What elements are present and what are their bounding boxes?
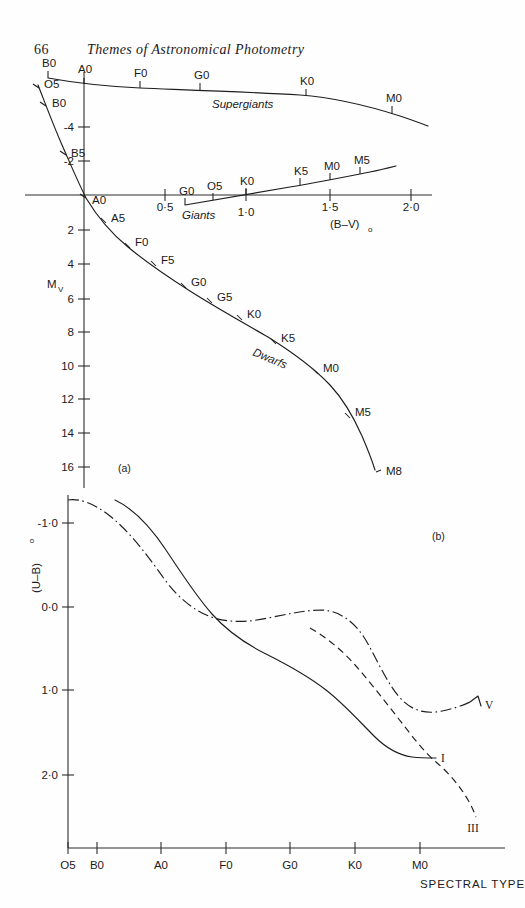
panel-a-ytick-8: 14 — [61, 427, 74, 439]
panel-b-x-axis-label: SPECTRAL TYPE — [420, 878, 525, 890]
page-canvas: 66Themes of Astronomical Photometry — [0, 0, 525, 908]
dwarfs-point-a0: A0 — [92, 194, 106, 206]
supergiants-point-a0: A0 — [78, 63, 92, 75]
supergiants-point-k0: K0 — [300, 75, 314, 87]
giants-point-o5: O5 — [207, 180, 222, 192]
panel-b-ytick-1: 0·0 — [41, 601, 58, 613]
panel-b-ytick-0: -1·0 — [38, 517, 58, 529]
panel-a-xtick-0: 0·5 — [157, 201, 174, 213]
panel-b-ytick-2: 1·0 — [41, 684, 58, 696]
panel-b-xtick-m0: M0 — [412, 859, 428, 871]
dwarfs-point-k0: K0 — [247, 308, 261, 320]
curve-b-supergiant-i — [115, 500, 436, 758]
giants-point-k5: K5 — [294, 165, 308, 177]
panel-a-ytick-5: 8 — [68, 326, 74, 338]
dwarfs-point-m0: M0 — [323, 362, 339, 374]
dwarfs-point-b0: B0 — [52, 97, 66, 109]
panel-a-xtick-1: 1·0 — [238, 206, 255, 218]
curve-b-dwarf-v-tail — [470, 696, 481, 706]
panel-b: -1·0 0·0 1·0 2·0 (U–B) o O5 B0 A0 F0 G0 … — [27, 495, 525, 890]
dwarfs-point-o5: O5 — [44, 78, 59, 90]
dwarfs-point-b5: B5 — [71, 147, 85, 159]
giants-sequence-label: Giants — [182, 209, 215, 221]
panel-a-ytick-7: 12 — [61, 393, 74, 405]
dwarfs-sequence-label: Dwarfs — [251, 346, 289, 371]
panel-a-ytick-9: 16 — [61, 461, 74, 473]
giants-point-g0: G0 — [179, 185, 194, 197]
panel-a-x-axis-label: (B–V) — [330, 218, 360, 230]
panel-b-ytick-3: 2·0 — [41, 769, 58, 781]
panel-a-y-axis-label: M — [47, 278, 57, 290]
supergiants-point-f0: F0 — [134, 67, 147, 79]
dwarfs-point-g0: G0 — [191, 276, 206, 288]
panel-a: -4 -2 2 4 6 8 10 12 14 16 M V 0·5 1·0 1·… — [25, 57, 432, 488]
panel-a-ytick-6: 10 — [61, 360, 74, 372]
dwarfs-point-m5: M5 — [355, 406, 371, 418]
supergiants-point-b0: B0 — [42, 57, 56, 69]
curve-b-dwarf-v — [68, 500, 470, 713]
panel-a-ytick-3: 4 — [68, 258, 75, 270]
curve-label-v: V — [485, 699, 494, 711]
panel-b-y-axis-label: (U–B) — [30, 563, 42, 593]
panel-b-y-axis-sublabel: o — [27, 538, 36, 543]
curve-dwarfs — [38, 85, 375, 470]
panel-a-label: (a) — [118, 462, 131, 474]
dwarfs-point-g5: G5 — [217, 291, 232, 303]
dwarfs-point-m8: M8 — [386, 465, 402, 477]
curve-b-giant-iii — [310, 628, 476, 817]
panel-a-xtick-2: 1·5 — [322, 201, 339, 213]
panel-b-xtick-k0: K0 — [348, 859, 362, 871]
panel-a-x-axis-sublabel: o — [368, 225, 373, 234]
giants-point-m5: M5 — [354, 154, 370, 166]
dwarfs-point-a5: A5 — [111, 212, 125, 224]
panel-a-xtick-3: 2·0 — [403, 201, 420, 213]
panel-b-xtick-b0: B0 — [90, 859, 104, 871]
panel-b-label: (b) — [432, 530, 445, 542]
dwarfs-ticks — [33, 84, 381, 472]
panel-b-xtick-o5: O5 — [60, 859, 75, 871]
curve-label-iii: III — [467, 822, 479, 834]
panel-a-ytick-4: 6 — [68, 293, 74, 305]
supergiants-sequence-label: Supergiants — [212, 98, 274, 110]
giants-point-m0: M0 — [324, 160, 340, 172]
panel-a-y-axis-sublabel: V — [58, 285, 64, 294]
panel-b-xtick-g0: G0 — [282, 859, 297, 871]
panel-a-ytick-2: 2 — [68, 224, 74, 236]
dwarfs-point-f0: F0 — [135, 236, 148, 248]
curve-label-i: I — [441, 752, 445, 764]
giants-point-k0: K0 — [240, 175, 254, 187]
supergiants-point-g0: G0 — [194, 69, 209, 81]
figure-astronomical-hr-diagram: -4 -2 2 4 6 8 10 12 14 16 M V 0·5 1·0 1·… — [0, 0, 525, 908]
panel-b-xtick-f0: F0 — [219, 859, 232, 871]
dwarfs-point-f5: F5 — [161, 254, 174, 266]
panel-a-ytick-0: -4 — [64, 121, 75, 133]
supergiants-point-m0: M0 — [386, 92, 402, 104]
dwarfs-point-k5: K5 — [281, 332, 295, 344]
panel-b-xtick-a0: A0 — [154, 859, 168, 871]
